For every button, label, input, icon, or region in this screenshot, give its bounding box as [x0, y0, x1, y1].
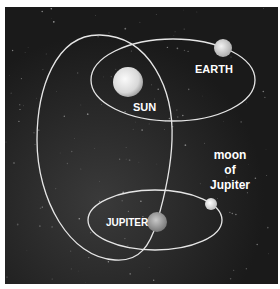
star	[33, 132, 35, 134]
star	[255, 178, 257, 180]
star	[124, 111, 125, 112]
star	[129, 159, 131, 161]
star	[235, 214, 236, 215]
star	[11, 93, 12, 94]
star	[78, 218, 80, 220]
star	[124, 238, 125, 239]
star	[184, 29, 185, 30]
star	[46, 54, 47, 55]
star	[156, 14, 157, 15]
star	[77, 72, 79, 74]
star	[187, 51, 188, 52]
star	[233, 270, 234, 271]
star	[64, 115, 65, 116]
star	[266, 149, 267, 150]
star	[140, 201, 142, 203]
star	[175, 31, 176, 32]
earth	[214, 39, 232, 57]
star	[87, 113, 89, 115]
star	[139, 162, 140, 163]
star	[51, 226, 52, 227]
star	[139, 22, 140, 23]
star	[133, 129, 134, 130]
star	[232, 213, 233, 214]
star	[177, 47, 179, 49]
star	[197, 12, 198, 13]
star	[12, 50, 13, 51]
star	[183, 10, 184, 11]
space-background	[5, 7, 278, 284]
star	[53, 21, 55, 23]
star	[81, 169, 82, 170]
star	[188, 89, 190, 91]
star	[263, 8, 264, 9]
star	[71, 151, 72, 152]
star	[135, 122, 136, 123]
star	[128, 211, 129, 212]
star	[27, 250, 28, 251]
moon-label-line-1: moon	[214, 148, 247, 162]
star	[42, 69, 43, 70]
star	[52, 278, 53, 279]
star	[184, 50, 185, 51]
star	[108, 261, 110, 263]
star	[40, 207, 42, 209]
star	[126, 147, 127, 148]
star	[217, 198, 218, 199]
star	[36, 98, 37, 99]
star	[38, 129, 40, 131]
star	[25, 52, 26, 53]
star	[85, 282, 86, 283]
star	[241, 121, 242, 122]
star	[103, 76, 104, 77]
star	[149, 267, 150, 268]
star	[101, 104, 102, 105]
star	[74, 138, 75, 139]
star	[156, 164, 157, 165]
star	[70, 251, 71, 252]
star	[56, 91, 57, 92]
sun	[113, 67, 143, 97]
star	[267, 227, 269, 229]
star	[80, 105, 81, 106]
star	[18, 121, 19, 122]
star	[262, 91, 264, 93]
star	[60, 153, 61, 154]
star	[99, 181, 100, 182]
star	[119, 159, 120, 160]
star	[268, 253, 269, 254]
star	[21, 78, 22, 79]
star	[71, 268, 72, 269]
star	[153, 280, 154, 281]
star	[97, 36, 98, 37]
star	[185, 144, 187, 146]
moon-label-line-3: Jupiter	[210, 178, 250, 192]
star	[229, 212, 230, 213]
star	[230, 278, 232, 280]
orbit-diagram: SUN EARTH JUPITER moon of Jupiter	[0, 0, 280, 289]
star	[88, 257, 89, 258]
star	[55, 188, 56, 189]
star	[169, 118, 171, 120]
star	[51, 8, 53, 10]
star	[94, 148, 95, 149]
star	[202, 96, 203, 97]
star	[157, 88, 159, 90]
star	[200, 183, 201, 184]
star	[67, 163, 68, 164]
star	[127, 245, 128, 246]
star	[13, 162, 14, 163]
star	[42, 206, 43, 207]
star	[17, 224, 19, 226]
star	[108, 32, 109, 33]
star	[41, 11, 43, 13]
star	[115, 69, 116, 70]
jupiter-label: JUPITER	[106, 217, 149, 228]
star	[177, 116, 179, 118]
star	[151, 84, 152, 85]
sun-label: SUN	[133, 101, 156, 113]
moon-of-jupiter	[205, 198, 217, 210]
star	[34, 144, 35, 145]
star	[129, 273, 131, 275]
star	[246, 268, 247, 269]
